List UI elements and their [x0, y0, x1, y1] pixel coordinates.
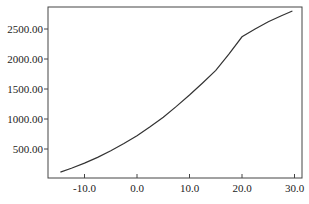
- x-tick-label: 20.0: [232, 182, 252, 194]
- plot-frame: [48, 7, 302, 178]
- y-tick-label: 2500.00: [7, 23, 43, 35]
- x-tick-label: 30.0: [285, 182, 305, 194]
- x-tick-label: 0.0: [130, 182, 144, 194]
- y-tick-label: 2000.00: [7, 53, 43, 65]
- x-tick-label: -10.0: [73, 182, 96, 194]
- x-tick-label: 10.0: [180, 182, 200, 194]
- y-axis: 500.001000.001500.002000.002500.00: [7, 23, 48, 155]
- y-tick-label: 500.00: [13, 143, 44, 155]
- y-tick-label: 1500.00: [7, 83, 43, 95]
- line-chart: 500.001000.001500.002000.002500.00 -10.0…: [0, 0, 309, 204]
- y-tick-label: 1000.00: [7, 113, 43, 125]
